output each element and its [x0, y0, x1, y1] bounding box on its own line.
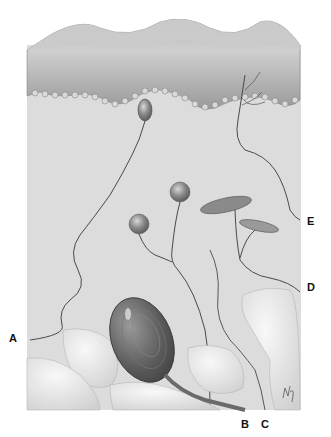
- label-d: D: [307, 282, 315, 293]
- meissner-corpuscle: [170, 182, 190, 202]
- label-c: C: [261, 419, 269, 430]
- merkel-cell: [138, 99, 152, 121]
- meissner-corpuscle: [129, 214, 149, 234]
- label-b: B: [241, 419, 249, 430]
- label-a: A: [9, 333, 17, 344]
- label-e: E: [307, 216, 314, 227]
- skin-receptor-illustration: [0, 0, 331, 437]
